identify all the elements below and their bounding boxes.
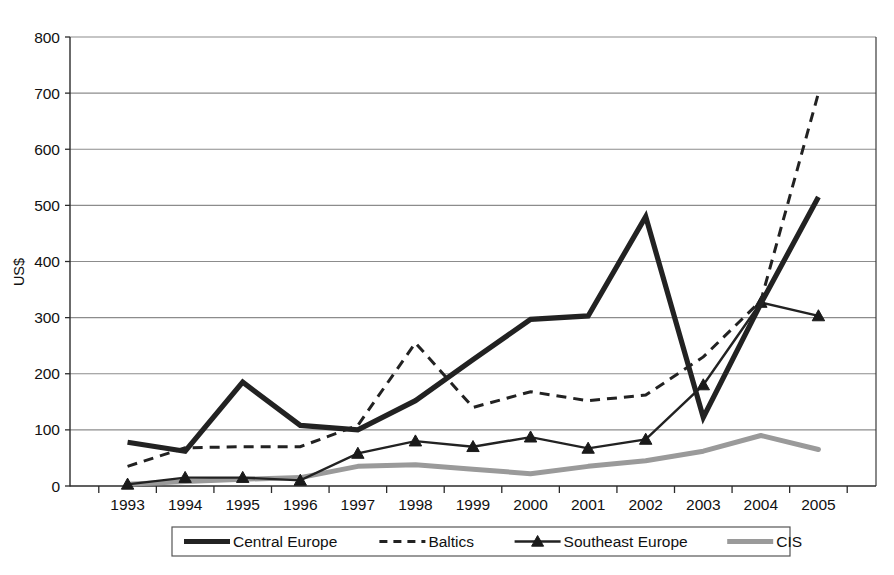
x-tick-label: 2005 <box>801 496 835 513</box>
y-tick-label: 300 <box>34 309 60 326</box>
x-tick-label: 2004 <box>744 496 779 513</box>
y-tick-label: 400 <box>34 253 60 270</box>
x-tick-label: 1998 <box>398 496 432 513</box>
legend-label: Central Europe <box>233 533 337 550</box>
y-tick-label: 500 <box>34 197 60 214</box>
y-tick-label: 200 <box>34 365 60 382</box>
x-tick-label: 1994 <box>168 496 203 513</box>
legend-label: Baltics <box>428 533 474 550</box>
y-axis-title: US$ <box>11 258 27 286</box>
x-tick-label: 1997 <box>341 496 375 513</box>
x-tick-label: 1995 <box>225 496 259 513</box>
line-chart: 0100200300400500600700800 19931994199519… <box>0 0 894 575</box>
x-tick-label: 1999 <box>456 496 490 513</box>
x-tick-label: 2003 <box>686 496 720 513</box>
y-tick-label: 600 <box>34 141 60 158</box>
chart-canvas: 0100200300400500600700800 19931994199519… <box>0 0 894 575</box>
y-tick-label: 700 <box>34 85 60 102</box>
x-tick-label: 2000 <box>513 496 548 513</box>
y-tick-label: 100 <box>34 421 60 438</box>
x-tick-label: 2002 <box>628 496 662 513</box>
x-tick-label: 1993 <box>110 496 144 513</box>
legend-label: CIS <box>776 533 802 550</box>
y-tick-label: 800 <box>34 29 60 46</box>
y-tick-label: 0 <box>51 478 60 495</box>
x-tick-label: 1996 <box>283 496 317 513</box>
x-tick-label: 2001 <box>571 496 605 513</box>
chart-legend: Central EuropeBalticsSoutheast EuropeCIS <box>172 527 802 556</box>
legend-label: Southeast Europe <box>564 533 688 550</box>
